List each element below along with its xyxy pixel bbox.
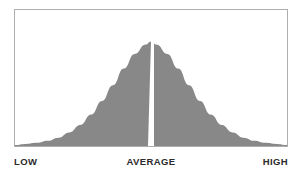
axis-label-row: LOW AVERAGE HIGH	[14, 155, 288, 169]
distribution-area-right	[154, 41, 287, 146]
axis-label-high: HIGH	[263, 156, 288, 168]
plot-frame	[14, 9, 288, 147]
axis-label-average: AVERAGE	[126, 156, 175, 168]
bell-curve-plot	[15, 10, 287, 146]
bell-curve-figure: LOW AVERAGE HIGH	[0, 0, 302, 177]
axis-label-low: LOW	[14, 156, 37, 168]
distribution-area	[15, 41, 151, 146]
